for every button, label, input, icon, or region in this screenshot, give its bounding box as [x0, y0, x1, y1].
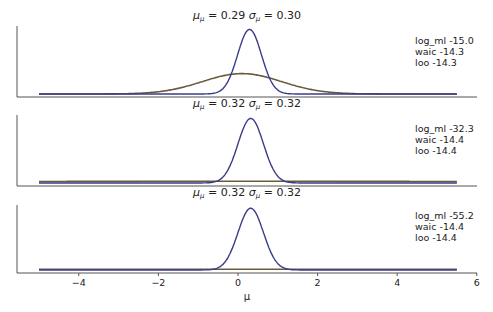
chart-figure: μμ = 0.29 σμ = 0.30log_ml -15.0waic -14.… — [0, 0, 493, 312]
annotation-text: loo -14.4 — [415, 232, 457, 243]
annotation-text: waic -14.4 — [415, 134, 464, 145]
x-tick-label: 6 — [474, 277, 480, 288]
x-tick-label: 4 — [394, 277, 400, 288]
x-tick-label: 0 — [235, 277, 241, 288]
posterior-curve — [39, 208, 457, 270]
annotation-text: log_ml -15.0 — [415, 35, 474, 46]
panel-1: μμ = 0.29 σμ = 0.30log_ml -15.0waic -14.… — [17, 9, 477, 97]
annotation-text: loo -14.4 — [415, 145, 457, 156]
annotation-text: waic -14.4 — [415, 221, 464, 232]
chart-svg: μμ = 0.29 σμ = 0.30log_ml -15.0waic -14.… — [0, 0, 493, 312]
x-tick-label: −2 — [151, 277, 165, 288]
posterior-curve — [39, 30, 457, 95]
annotation-text: log_ml -32.3 — [415, 123, 474, 134]
x-tick-label: −4 — [72, 277, 86, 288]
annotation-text: waic -14.3 — [415, 46, 464, 57]
panel-2: μμ = 0.32 σμ = 0.32log_ml -32.3waic -14.… — [17, 97, 477, 186]
posterior-curve — [39, 118, 457, 183]
panel-title: μμ = 0.32 σμ = 0.32 — [192, 186, 301, 200]
annotation-text: log_ml -55.2 — [415, 210, 474, 221]
annotation-text: loo -14.3 — [415, 57, 457, 68]
prior-curve — [39, 74, 457, 94]
panel-title: μμ = 0.29 σμ = 0.30 — [192, 9, 301, 23]
x-tick-label: 2 — [315, 277, 321, 288]
panel-3: μμ = 0.32 σμ = 0.32log_ml -55.2waic -14.… — [17, 186, 477, 273]
x-axis-label: μ — [244, 291, 251, 302]
panel-title: μμ = 0.32 σμ = 0.32 — [192, 97, 301, 111]
